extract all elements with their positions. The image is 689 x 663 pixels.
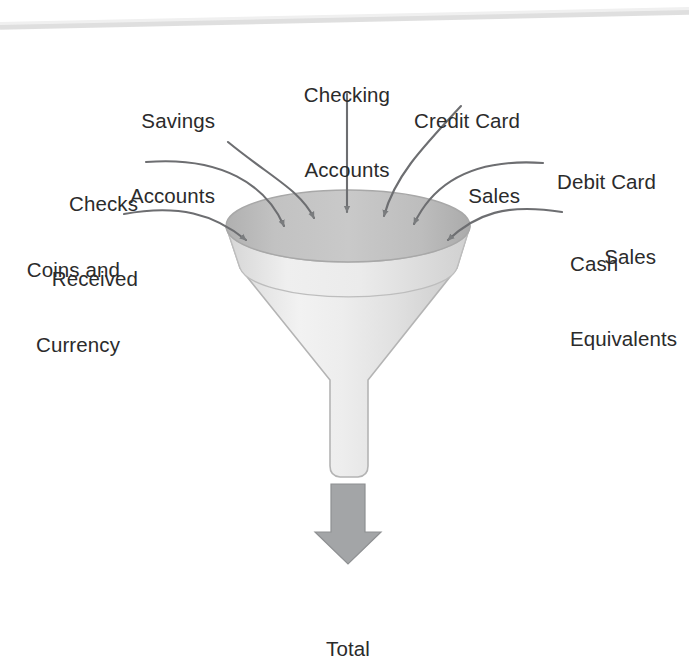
label-total-cash-balance-line1: Total xyxy=(228,636,468,661)
label-coins-and-currency: Coins and Currency xyxy=(12,207,120,407)
label-credit-card-sales-line1: Credit Card xyxy=(405,108,520,133)
label-cash-equivalents: Cash Equivalents xyxy=(570,201,689,401)
label-credit-card-sales-line2: Sales xyxy=(405,183,520,208)
label-coins-and-currency-line2: Currency xyxy=(12,332,120,357)
label-checking-accounts-line2: Accounts xyxy=(282,157,412,182)
label-cash-equivalents-line2: Equivalents xyxy=(570,326,689,351)
label-checking-accounts-line1: Checking xyxy=(282,82,412,107)
output-arrow xyxy=(315,484,381,564)
label-savings-accounts-line1: Savings xyxy=(100,108,215,133)
label-debit-card-sales-line1: Debit Card xyxy=(533,169,656,194)
page-edge-line xyxy=(0,9,689,28)
label-credit-card-sales: Credit Card Sales xyxy=(405,58,520,258)
funnel-diagram: Savings Accounts Checking Accounts Credi… xyxy=(0,0,689,663)
label-coins-and-currency-line1: Coins and xyxy=(12,257,120,282)
label-checking-accounts: Checking Accounts xyxy=(282,32,412,232)
label-cash-equivalents-line1: Cash xyxy=(570,251,689,276)
label-total-cash-balance: Total Cash Balance xyxy=(228,586,468,663)
